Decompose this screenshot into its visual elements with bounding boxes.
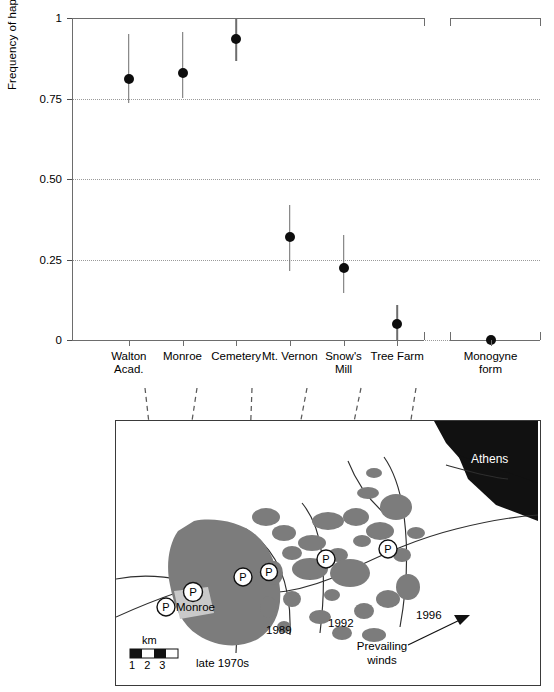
- y-tick-label-0.75: 0.75: [10, 93, 62, 105]
- y-tick-label-0: 0: [10, 334, 62, 346]
- late-1970s-label: late 1970s: [196, 657, 249, 669]
- site-marker-snowsmill: P: [317, 550, 335, 568]
- gridline-0.50: [72, 179, 540, 180]
- data-point[interactable]: [392, 319, 402, 329]
- prevailing-winds-label: Prevailing winds: [338, 639, 426, 667]
- axis-bracket-cap: [424, 332, 425, 340]
- y-axis-line: [72, 18, 73, 340]
- plot-area: [72, 18, 540, 340]
- site-marker-treefarm: P: [379, 540, 397, 558]
- x-axis-label-line: Acad.: [114, 363, 143, 375]
- dispersal-map: P P P P P: [115, 420, 541, 686]
- x-tick-mark: [236, 340, 237, 346]
- y-tick-label-1: 1: [10, 12, 62, 24]
- y-tick-label-0.50: 0.50: [10, 173, 62, 185]
- year-1989-label: 1989: [266, 624, 292, 636]
- site-marker-mtvernon: P: [261, 564, 278, 581]
- x-axis-label-line: Walton: [111, 350, 146, 362]
- data-point[interactable]: [124, 74, 134, 84]
- y-tick-label-0.25: 0.25: [10, 254, 62, 266]
- x-tick-mark: [491, 340, 492, 346]
- svg-text:P: P: [322, 553, 329, 565]
- x-axis-label-line: Tree Farm: [371, 350, 424, 362]
- x-tick-mark: [129, 340, 130, 346]
- axis-bracket-cap: [540, 18, 541, 26]
- year-1996-label: 1996: [416, 609, 442, 621]
- data-point[interactable]: [339, 263, 349, 273]
- gridline-0.75: [72, 99, 540, 100]
- road-spur: [348, 461, 384, 513]
- site-marker-cemetery: P: [234, 568, 252, 586]
- x-tick-mark: [183, 340, 184, 346]
- axis-top-segment: [450, 18, 540, 19]
- axis-top-segment: [72, 18, 424, 19]
- x-axis-label-4: Snow'sMill: [325, 350, 362, 376]
- winds-line2: winds: [367, 654, 396, 666]
- error-bar: [182, 32, 184, 98]
- x-tick-mark: [397, 340, 398, 346]
- haplotype-frequency-chart: Frequency of haplotype C 00.250.500.751 …: [0, 0, 554, 405]
- x-axis-label-2: Cemetery: [211, 350, 261, 363]
- winds-line1: Prevailing: [357, 640, 408, 652]
- x-axis-label-0: WaltonAcad.: [111, 350, 146, 376]
- athens-label: Athens: [471, 452, 508, 466]
- x-axis-label-line: Monroe: [163, 350, 202, 362]
- x-tick-mark: [344, 340, 345, 346]
- scale-ticks-label: 1 2 3: [129, 659, 168, 671]
- svg-text:P: P: [162, 601, 169, 613]
- year-1992-label: 1992: [328, 617, 354, 629]
- x-axis-label-line: form: [479, 363, 502, 375]
- monroe-label: Monroe: [176, 601, 215, 613]
- data-point[interactable]: [285, 232, 295, 242]
- x-axis-label-line: Mill: [335, 363, 352, 375]
- x-axis-label-1: Monroe: [163, 350, 202, 363]
- scale-bar: [130, 649, 178, 658]
- x-axis-label-line: Snow's: [325, 350, 362, 362]
- data-point[interactable]: [231, 34, 241, 44]
- axis-bracket-cap: [424, 18, 425, 26]
- x-tick-mark: [290, 340, 291, 346]
- data-point[interactable]: [178, 68, 188, 78]
- scale-unit-label: km: [142, 634, 157, 646]
- gridline-0.25: [72, 260, 540, 261]
- x-axis-label-6: Monogyneform: [464, 350, 518, 376]
- axis-bottom-segment: [72, 340, 424, 341]
- svg-text:P: P: [189, 586, 197, 598]
- error-bar: [128, 34, 130, 103]
- x-axis-label-line: Monogyne: [464, 350, 518, 362]
- site-marker-walton: P: [184, 583, 203, 602]
- figure-root: Frequency of haplotype C 00.250.500.751 …: [0, 0, 554, 692]
- x-axis-label-line: Mt. Vernon: [262, 350, 318, 362]
- svg-text:P: P: [265, 566, 272, 578]
- x-axis-label-line: Cemetery: [211, 350, 261, 362]
- svg-text:P: P: [239, 571, 246, 583]
- site-marker-monroe: P: [157, 598, 175, 616]
- axis-bracket-cap: [450, 332, 451, 340]
- x-axis-label-3: Mt. Vernon: [262, 350, 318, 363]
- axis-bracket-cap: [72, 332, 73, 340]
- x-axis-label-5: Tree Farm: [371, 350, 424, 363]
- axis-bracket-cap: [450, 18, 451, 26]
- svg-text:P: P: [384, 543, 391, 555]
- axis-bracket-cap: [540, 332, 541, 340]
